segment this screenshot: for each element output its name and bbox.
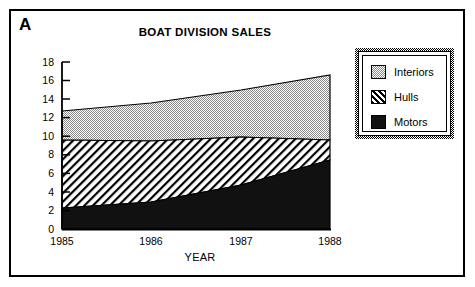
y-tick-label: 18 xyxy=(28,57,54,68)
figure-container: A BOAT DIVISION SALES xyxy=(0,0,475,287)
chart-legend: Interiors Hulls Motors xyxy=(358,51,451,136)
y-tick-label: 4 xyxy=(28,187,54,198)
legend-label-motors: Motors xyxy=(394,116,428,128)
legend-swatch-motors-icon xyxy=(371,115,386,129)
legend-swatch-hulls-icon xyxy=(371,90,386,104)
x-axis-title: YEAR xyxy=(130,251,270,263)
y-tick-label: 8 xyxy=(28,149,54,160)
x-tick-label: 1988 xyxy=(307,236,353,247)
y-tick-label: 0 xyxy=(28,224,54,235)
y-tick-label: 6 xyxy=(28,168,54,179)
y-tick-label: 10 xyxy=(28,131,54,142)
legend-item-motors[interactable]: Motors xyxy=(371,114,428,130)
y-tick-label: 14 xyxy=(28,94,54,105)
y-tick-label: 2 xyxy=(28,205,54,216)
series-area-interiors xyxy=(62,75,330,141)
legend-label-interiors: Interiors xyxy=(394,66,434,78)
legend-label-hulls: Hulls xyxy=(394,91,418,103)
x-tick-label: 1985 xyxy=(39,236,85,247)
x-tick-label: 1987 xyxy=(218,236,264,247)
x-tick-label: 1986 xyxy=(128,236,174,247)
y-tick-label: 12 xyxy=(28,112,54,123)
legend-item-hulls[interactable]: Hulls xyxy=(371,89,418,105)
legend-item-interiors[interactable]: Interiors xyxy=(371,64,434,80)
legend-inner-frame: Interiors Hulls Motors xyxy=(362,55,447,132)
y-tick-label: 16 xyxy=(28,75,54,86)
legend-swatch-interiors-icon xyxy=(371,65,386,79)
